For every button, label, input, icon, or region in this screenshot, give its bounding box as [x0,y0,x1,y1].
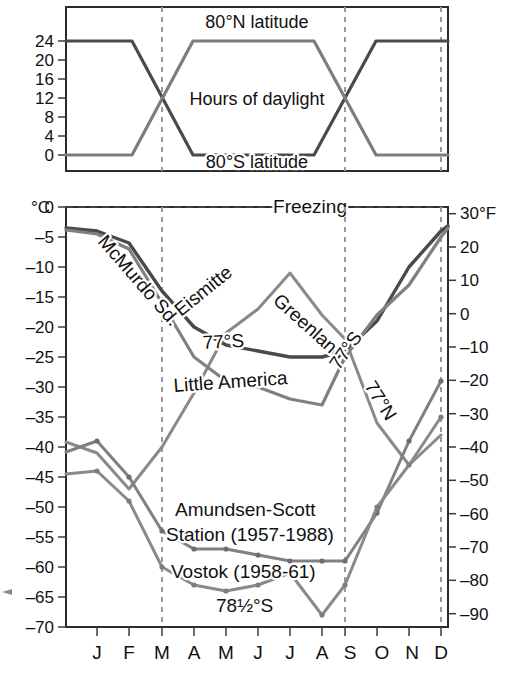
month-label-aug: A [316,642,329,663]
right-tick-m40: –40 [460,438,488,457]
temperature-x-ticks [97,627,441,636]
chart-svg: 24 20 16 12 8 4 0 80°N latitude Hours of… [0,0,513,676]
temperature-right-ticks [448,214,456,614]
left-tick-m15: –15 [26,288,54,307]
right-tick-m20: –20 [460,371,488,390]
label-hours-of-daylight: Hours of daylight [189,89,324,109]
right-tick-10: 10 [460,271,479,290]
daylight-tick-16: 16 [35,70,54,89]
temperature-left-ticks [58,207,66,627]
left-tick-m5: –5 [35,228,54,247]
label-80n-latitude: 80°N latitude [205,12,308,32]
daylight-y-ticks [58,41,66,155]
month-label-oct: O [375,642,390,663]
right-tick-m50: –50 [460,471,488,490]
polar-climate-figure: 24 20 16 12 8 4 0 80°N latitude Hours of… [0,0,513,676]
daylight-tick-8: 8 [45,108,54,127]
right-tick-m10: –10 [460,338,488,357]
month-label-feb: F [123,642,135,663]
left-tick-m65: –65 [26,588,54,607]
left-tick-m25: –25 [26,348,54,367]
month-label-apr: A [188,642,201,663]
left-tick-m40: –40 [26,438,54,457]
month-label-may: M [218,642,234,663]
daylight-tick-20: 20 [35,51,54,70]
daylight-tick-0: 0 [45,146,54,165]
daylight-tick-4: 4 [45,127,54,146]
month-label-sep: S [344,642,357,663]
daylight-tick-12: 12 [35,89,54,108]
freezing-label: Freezing [273,196,347,217]
month-label-dec: D [434,642,448,663]
label-mcmurdo-latitude: 77°S [202,330,244,353]
label-amundsen-scott-line2: Station (1957-1988) [166,524,334,545]
left-tick-m35: –35 [26,408,54,427]
left-tick-m60: –60 [26,558,54,577]
left-tick-m55: –55 [26,528,54,547]
right-tick-m70: –70 [460,538,488,557]
label-mcmurdo-sd: McMurdo Sd. [94,231,184,330]
label-amundsen-scott-line1: Amundsen-Scott [175,499,316,520]
month-label-jul: J [285,642,295,663]
month-label-mar: M [154,642,170,663]
month-label-jan: J [92,642,102,663]
label-80s-latitude: 80°S latitude [206,152,308,172]
left-tick-m45: –45 [26,468,54,487]
label-eismitte: Eismitte [170,261,236,320]
left-tick-m20: –20 [26,318,54,337]
daylight-panel: 24 20 16 12 8 4 0 80°N latitude Hours of… [35,7,448,172]
month-label-nov: N [405,642,419,663]
label-little-america-latitude: 77°N [361,377,401,424]
label-vostok: Vostok (1958-61) [171,561,316,582]
right-tick-m60: –60 [460,505,488,524]
month-label-jun: J [253,642,263,663]
right-tick-30f: 30°F [460,204,496,223]
right-tick-m90: –90 [460,605,488,624]
right-tick-20: 20 [460,238,479,257]
left-tick-m50: –50 [26,498,54,517]
right-tick-m80: –80 [460,571,488,590]
temperature-panel: °C 0 –5 –10 –15 –20 –25 –30 –35 –40 –45 [2,196,496,663]
left-tick-m30: –30 [26,378,54,397]
right-tick-m30: –30 [460,405,488,424]
left-edge-pointer-icon [2,589,12,595]
label-vostok-latitude: 78½°S [216,595,273,616]
left-tick-m70: –70 [26,618,54,637]
left-tick-0: 0 [45,198,54,217]
right-tick-0: 0 [460,305,469,324]
daylight-tick-24: 24 [35,32,54,51]
left-tick-m10: –10 [26,258,54,277]
